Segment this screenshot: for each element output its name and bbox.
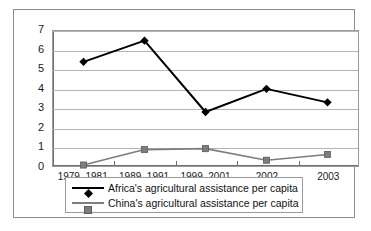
chart-legend: Africa's agricultural assistance per cap… — [65, 177, 303, 213]
y-tick-label-4: 4 — [18, 83, 44, 94]
legend-item-africa: Africa's agricultural assistance per cap… — [72, 181, 298, 195]
square-marker-icon — [84, 200, 92, 218]
y-tick-label-5: 5 — [18, 63, 44, 74]
data-point-square — [80, 162, 86, 168]
data-point-square — [141, 147, 147, 153]
y-tick-label-1: 1 — [18, 141, 44, 152]
data-point-square — [263, 157, 269, 163]
series-line — [84, 41, 328, 112]
series-africa — [79, 37, 331, 117]
legend-item-china: China's agricultural assistance per capi… — [72, 196, 299, 210]
y-tick-label-6: 6 — [18, 44, 44, 55]
data-point-square — [324, 151, 330, 157]
series-china — [80, 146, 330, 168]
y-tick-label-0: 0 — [18, 161, 44, 172]
chart-figure: 01234567 1979–19811989–19911999–20012002… — [0, 0, 371, 231]
plot-area — [52, 30, 359, 167]
y-tick-label-2: 2 — [18, 122, 44, 133]
data-point-diamond — [79, 58, 87, 66]
y-tick-label-3: 3 — [18, 102, 44, 113]
data-point-diamond — [262, 85, 270, 93]
x-tick-label-4: 2003 — [317, 171, 339, 182]
data-point-square — [202, 146, 208, 152]
legend-swatch-china — [72, 197, 104, 209]
series-layer — [53, 31, 358, 166]
y-tick-label-7: 7 — [18, 24, 44, 35]
legend-swatch-africa — [72, 182, 104, 194]
data-point-diamond — [323, 98, 331, 106]
legend-label-china: China's agricultural assistance per capi… — [108, 197, 299, 209]
legend-label-africa: Africa's agricultural assistance per cap… — [108, 182, 298, 194]
